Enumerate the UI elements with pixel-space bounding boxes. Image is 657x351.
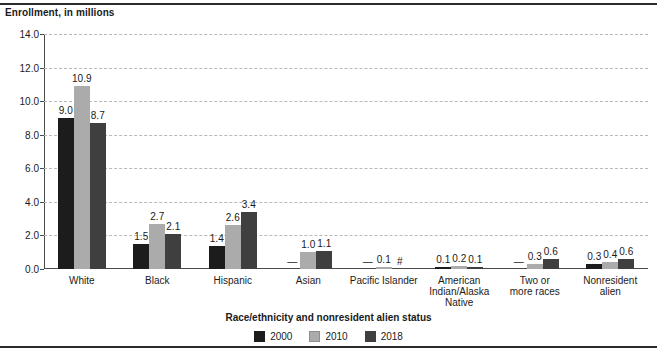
- bar-group-bars: 0.30.40.6: [586, 34, 634, 269]
- y-tick-label: 2.0: [25, 230, 39, 241]
- bar-value-label: 0.2: [452, 254, 466, 264]
- category-label: Asian: [296, 275, 321, 286]
- bar-slot: 1.4: [209, 34, 225, 269]
- bar-value-dash: —: [287, 257, 297, 267]
- y-tick-mark: [40, 235, 44, 236]
- bar-slot: 1.5: [133, 34, 149, 269]
- category-label: Two ormore races: [510, 275, 560, 297]
- legend-item-2000[interactable]: 2000: [254, 331, 292, 342]
- legend-label: 2018: [381, 331, 403, 342]
- bar-value-label: 1.0: [301, 240, 315, 250]
- bar-slot: 9.0: [58, 34, 74, 269]
- bar-slot: 2.7: [149, 34, 165, 269]
- bar[interactable]: [74, 86, 90, 269]
- bar[interactable]: [618, 259, 634, 269]
- bar[interactable]: [543, 259, 559, 269]
- bar-slot: 0.1: [435, 34, 451, 269]
- bar[interactable]: [165, 234, 181, 269]
- y-tick-mark: [40, 269, 44, 270]
- bar-value-label: 1.5: [134, 232, 148, 242]
- bar[interactable]: [241, 212, 257, 269]
- bar[interactable]: [300, 252, 316, 269]
- bar-value-label: 9.0: [59, 106, 73, 116]
- legend-label: 2000: [270, 331, 292, 342]
- bar-slot: 3.4: [241, 34, 257, 269]
- category-label: Black: [145, 275, 169, 286]
- bar[interactable]: [209, 246, 225, 270]
- bar[interactable]: [90, 123, 106, 269]
- y-tick-mark: [40, 168, 44, 169]
- bar-value-label: 0.6: [619, 247, 633, 257]
- bar-value-label: 3.4: [242, 200, 256, 210]
- bar[interactable]: [225, 225, 241, 269]
- bar-group-bars: 9.010.98.7: [58, 34, 106, 269]
- y-tick-mark: [40, 202, 44, 203]
- bar-slot: 1.0: [300, 34, 316, 269]
- bar[interactable]: [133, 244, 149, 269]
- y-tick-mark: [40, 34, 44, 35]
- y-tick-label: 14.0: [20, 29, 39, 40]
- bar-slot: 0.3: [586, 34, 602, 269]
- bar-value-label: 2.6: [226, 213, 240, 223]
- bar[interactable]: [527, 264, 543, 269]
- bar[interactable]: [586, 264, 602, 269]
- legend-swatch-icon: [254, 331, 265, 342]
- legend-swatch-icon: [309, 331, 320, 342]
- bar-group: 1.52.72.1Black: [133, 34, 181, 269]
- top-rule: [0, 3, 657, 5]
- bar-value-label: 2.7: [150, 212, 164, 222]
- bar-value-label: 0.3: [528, 252, 542, 262]
- bar-slot: 2.6: [225, 34, 241, 269]
- bar-slot: 0.1: [467, 34, 483, 269]
- bar-slot: 0.2: [451, 34, 467, 269]
- bar-group-bars: 1.52.72.1: [133, 34, 181, 269]
- bar-slot: 0.6: [618, 34, 634, 269]
- legend-item-2010[interactable]: 2010: [309, 331, 347, 342]
- bar-value-label: 0.1: [377, 255, 391, 265]
- bar-slot: 0.1: [376, 34, 392, 269]
- bar-slot: —: [511, 34, 527, 269]
- category-label: Pacific Islander: [350, 275, 418, 286]
- legend-item-2018[interactable]: 2018: [365, 331, 403, 342]
- bar[interactable]: [376, 267, 392, 269]
- bar-value-label: 1.4: [210, 234, 224, 244]
- y-tick-label: 8.0: [25, 129, 39, 140]
- bar[interactable]: [467, 267, 483, 269]
- bar-slot: 0.6: [543, 34, 559, 269]
- bar-group: —0.1#Pacific Islander: [360, 34, 408, 269]
- bar-group-bars: 0.10.20.1: [435, 34, 483, 269]
- bar-value-label: 0.6: [544, 247, 558, 257]
- bar-value-label: 2.1: [166, 222, 180, 232]
- bar[interactable]: [58, 118, 74, 269]
- y-tick-label: 12.0: [20, 62, 39, 73]
- y-tick-label: 6.0: [25, 163, 39, 174]
- bar[interactable]: [149, 224, 165, 269]
- bar[interactable]: [435, 267, 451, 269]
- bar-value-label: 1.1: [317, 239, 331, 249]
- chart-figure: Enrollment, in millions 0.02.04.06.08.01…: [0, 0, 657, 351]
- chart-legend: 200020102018: [0, 331, 657, 342]
- bar-value-dash: —: [514, 257, 524, 267]
- bar-group-bars: —0.1#: [360, 34, 408, 269]
- bar-slot: 1.1: [316, 34, 332, 269]
- bar-value-label: #: [397, 257, 403, 267]
- bar-value-dash: —: [363, 257, 373, 267]
- bar-group-bars: —1.01.1: [284, 34, 332, 269]
- bar-slot: 8.7: [90, 34, 106, 269]
- bar[interactable]: [451, 266, 467, 269]
- y-tick-mark: [40, 101, 44, 102]
- bar-group: —1.01.1Asian: [284, 34, 332, 269]
- bar-value-label: 0.1: [468, 255, 482, 265]
- bar-value-label: 8.7: [91, 111, 105, 121]
- plot-area: 0.02.04.06.08.010.012.014.09.010.98.7Whi…: [44, 34, 648, 269]
- category-label: AmericanIndian/AlaskaNative: [429, 275, 489, 308]
- bar-slot: #: [392, 34, 408, 269]
- bar-slot: 0.3: [527, 34, 543, 269]
- bar-slot: 0.4: [602, 34, 618, 269]
- y-axis-title: Enrollment, in millions: [5, 7, 115, 18]
- legend-swatch-icon: [365, 331, 376, 342]
- bar-value-label: 0.4: [603, 250, 617, 260]
- bar[interactable]: [316, 251, 332, 269]
- category-label: White: [69, 275, 95, 286]
- bar[interactable]: [602, 262, 618, 269]
